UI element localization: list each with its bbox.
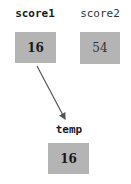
temp-box: 16 <box>48 143 89 174</box>
temp-label: temp <box>43 124 95 136</box>
